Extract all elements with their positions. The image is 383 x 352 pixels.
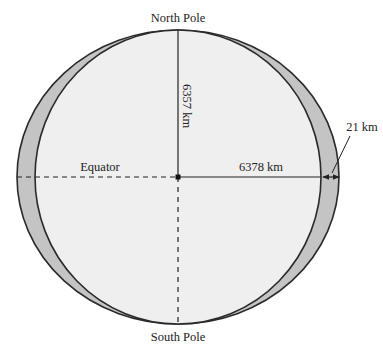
equator-label: Equator (80, 160, 120, 174)
difference-label: 21 km (346, 120, 378, 134)
center-point (176, 175, 181, 180)
south-pole-label: South Pole (151, 330, 206, 344)
north-pole-label: North Pole (151, 11, 206, 25)
equatorial-radius-label: 6378 km (239, 160, 283, 174)
earth-oblateness-diagram: North Pole South Pole Equator 6357 km 63… (0, 0, 383, 352)
polar-radius-label: 6357 km (180, 84, 194, 128)
